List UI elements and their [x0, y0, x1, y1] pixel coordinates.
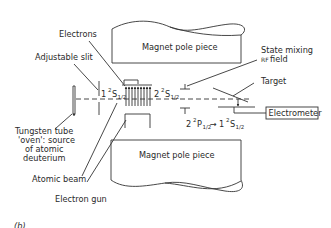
lower-magnet-pole-piece: Magnet pole piece	[111, 140, 243, 192]
label-oven-4: deuterium	[23, 153, 66, 163]
state-label-2s: 2 2 S 1/2	[154, 87, 179, 100]
svg-text:2: 2	[226, 117, 230, 123]
label-atomic-beam: Atomic beam	[32, 174, 86, 184]
svg-text:2: 2	[161, 87, 165, 93]
svg-text:2: 2	[193, 117, 197, 123]
label-field: field	[270, 54, 288, 64]
svg-text:2: 2	[154, 89, 159, 99]
upper-magnet-pole-piece: Magnet pole piece	[112, 21, 245, 63]
svg-text:S: S	[112, 89, 117, 99]
upper-magnet-label: Magnet pole piece	[142, 42, 218, 52]
svg-text:→: →	[210, 119, 217, 129]
svg-text:2: 2	[186, 119, 191, 129]
state-label-1s: 1 2 S 1/2	[101, 87, 126, 100]
label-rf: RF	[261, 56, 269, 63]
label-target: Target	[260, 76, 287, 86]
panel-label: (b)	[14, 221, 26, 228]
lower-magnet-label: Magnet pole piece	[139, 150, 215, 160]
label-electron-gun: Electron gun	[55, 194, 107, 204]
svg-text:P: P	[197, 119, 202, 129]
svg-text:1/2: 1/2	[236, 124, 245, 130]
label-adjustable-slit: Adjustable slit	[35, 52, 94, 62]
lamb-shift-apparatus-diagram: Magnet pole piece Magnet pole piece	[0, 0, 331, 228]
electrometer: Electrometer	[266, 107, 322, 119]
label-electrons: Electrons	[59, 29, 97, 39]
svg-text:1/2: 1/2	[118, 94, 127, 100]
svg-text:S: S	[165, 89, 170, 99]
callout-leaders	[55, 41, 257, 182]
svg-text:1/2: 1/2	[171, 94, 180, 100]
svg-text:1: 1	[101, 89, 106, 99]
electrometer-label: Electrometer	[269, 108, 323, 118]
svg-text:S: S	[230, 119, 235, 129]
electron-gun-assembly	[122, 80, 152, 128]
svg-text:1: 1	[219, 119, 224, 129]
electrons-arrows	[125, 87, 151, 107]
transition-label: 2 2 P 1/2 → 1 2 S 1/2	[186, 117, 244, 130]
svg-text:2: 2	[108, 87, 112, 93]
oven-tube	[73, 86, 75, 116]
